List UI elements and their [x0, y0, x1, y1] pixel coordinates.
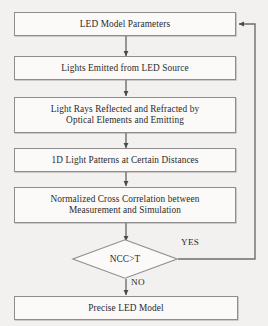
- node-light-rays-reflected[interactable]: Light Rays Reflected and Refracted by Op…: [14, 97, 236, 133]
- node-led-model-parameters-label: LED Model Parameters: [18, 19, 232, 30]
- edge-label-no: NO: [131, 277, 145, 287]
- flowchart-diagram: LED Model Parameters Lights Emitted from…: [0, 0, 268, 326]
- node-light-patterns[interactable]: 1D Light Patterns at Certain Distances: [14, 148, 236, 172]
- node-normalized-cross-correlation-label: Normalized Cross Correlation between Mea…: [18, 194, 232, 216]
- node-precise-led-model-label: Precise LED Model: [18, 303, 234, 314]
- node-normalized-cross-correlation[interactable]: Normalized Cross Correlation between Mea…: [14, 187, 236, 223]
- node-light-patterns-label: 1D Light Patterns at Certain Distances: [18, 155, 232, 166]
- node-lights-emitted-label: Lights Emitted from LED Source: [18, 63, 232, 74]
- edge-label-yes: YES: [181, 237, 199, 247]
- node-ncc-threshold-decision-label: NCC>T: [72, 239, 178, 279]
- node-ncc-threshold-decision[interactable]: NCC>T: [72, 239, 178, 279]
- node-lights-emitted[interactable]: Lights Emitted from LED Source: [14, 56, 236, 80]
- node-led-model-parameters[interactable]: LED Model Parameters: [14, 12, 236, 36]
- node-light-rays-reflected-label: Light Rays Reflected and Refracted by Op…: [18, 104, 232, 126]
- node-precise-led-model[interactable]: Precise LED Model: [14, 296, 238, 320]
